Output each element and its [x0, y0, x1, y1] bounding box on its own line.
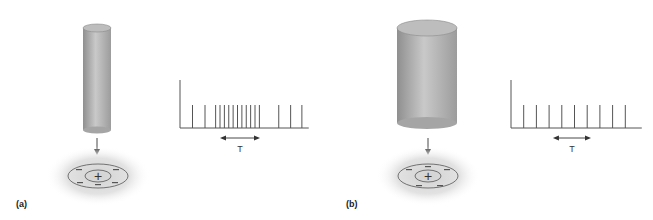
panel-b: + (b) T [346, 20, 642, 209]
panel-label-a: (a) [16, 199, 27, 209]
panel-a: + (a) T [16, 24, 309, 209]
arrowhead-left-icon [553, 136, 559, 141]
spike-train-b: T [511, 80, 642, 154]
center-sign: + [94, 168, 102, 184]
figure: + (a) T + [0, 0, 653, 220]
period-label: T [569, 144, 575, 154]
center-sign: + [424, 168, 432, 184]
period-label: T [237, 144, 243, 154]
wide-cylinder-stimulus [397, 20, 457, 129]
arrowhead-right-icon [254, 136, 260, 141]
spike-train-a: T [180, 80, 309, 154]
panel-label-b: (b) [346, 199, 358, 209]
arrowhead-right-icon [585, 136, 591, 141]
arrowhead-left-icon [220, 136, 226, 141]
thin-cylinder-stimulus [83, 24, 111, 134]
